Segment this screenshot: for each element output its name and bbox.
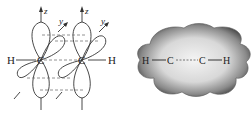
py-lobe-upper-left: [41, 36, 65, 60]
cloud-atom-h-left: H: [142, 55, 149, 66]
y-label-left: y: [58, 16, 63, 26]
z-label-right: z: [84, 6, 89, 16]
y-label-right: y: [100, 16, 105, 26]
atom-h-left: H: [7, 54, 15, 66]
z-label-left: z: [43, 6, 48, 16]
atom-c-left: C: [37, 54, 44, 66]
cloud-atom-h-right: H: [223, 55, 230, 66]
z-arrow-left-icon: [39, 6, 43, 12]
py-lobe-upper-right: [82, 36, 106, 60]
z-arrow-right-icon: [80, 6, 84, 12]
atom-h-right: H: [108, 54, 116, 66]
cloud-atom-c-left: C: [167, 55, 174, 66]
cloud-atom-c-right: C: [199, 55, 206, 66]
atom-c-right: C: [78, 54, 85, 66]
electron-cloud-diagram: [138, 24, 251, 97]
diagram-canvas: z z y y H C C H H C C H: [0, 0, 252, 118]
